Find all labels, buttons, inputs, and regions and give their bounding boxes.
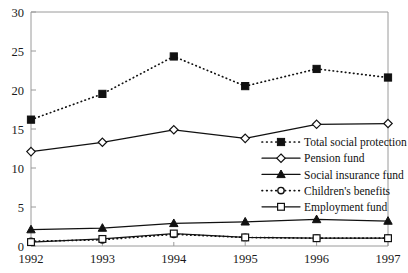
data-point xyxy=(385,235,392,242)
data-point xyxy=(170,53,177,60)
legend-label: Social insurance fund xyxy=(304,169,404,181)
x-tick-label: 1994 xyxy=(161,252,187,266)
x-tick-label: 1995 xyxy=(233,252,258,266)
data-point xyxy=(99,236,106,243)
legend-label: Children's benefits xyxy=(304,185,391,197)
x-tick-label: 1993 xyxy=(90,252,115,266)
data-point xyxy=(313,65,320,72)
y-tick-label: 20 xyxy=(12,84,25,98)
data-point xyxy=(242,83,249,90)
x-tick-label: 1997 xyxy=(376,252,401,266)
chart-container: 051015202530 199219931994199519961997 To… xyxy=(0,0,408,273)
y-tick-label: 5 xyxy=(18,201,24,215)
y-tick-label: 25 xyxy=(12,45,25,59)
data-point xyxy=(384,74,391,81)
legend-label: Pension fund xyxy=(304,152,365,164)
legend-marker xyxy=(277,138,284,145)
legend-marker xyxy=(278,203,285,210)
y-tick-label: 15 xyxy=(12,123,25,137)
data-point xyxy=(27,116,34,123)
line-chart: 051015202530 199219931994199519961997 To… xyxy=(0,0,408,273)
data-point xyxy=(28,239,35,246)
data-point xyxy=(242,234,249,241)
legend-label: Total social protection xyxy=(304,136,407,149)
data-point xyxy=(313,235,320,242)
y-tick-label: 10 xyxy=(12,162,25,176)
legend-marker xyxy=(278,187,284,193)
y-tick-label: 30 xyxy=(12,6,25,20)
data-point xyxy=(99,90,106,97)
data-point xyxy=(170,230,177,237)
x-tick-label: 1996 xyxy=(304,252,329,266)
x-tick-label: 1992 xyxy=(19,252,44,266)
legend-label: Employment fund xyxy=(304,201,388,214)
